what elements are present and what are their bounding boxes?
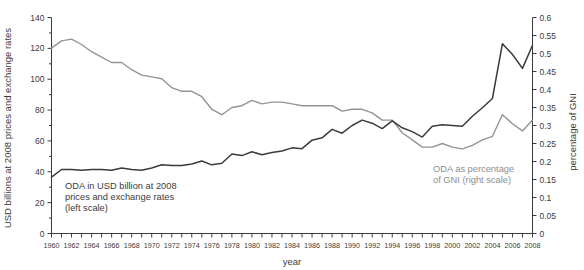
right-axis-ticks bbox=[533, 18, 537, 234]
tick-label: 1974 bbox=[184, 241, 200, 250]
tick-label: 1994 bbox=[384, 241, 400, 250]
y2-axis-title: percentage of GNI bbox=[567, 93, 578, 171]
tick-label: 0.3 bbox=[540, 121, 552, 131]
tick-label: 0.1 bbox=[540, 193, 552, 203]
tick-label: 0 bbox=[540, 229, 545, 239]
tick-label: 0.35 bbox=[540, 103, 557, 113]
tick-label: 1996 bbox=[404, 241, 420, 250]
chart-container: 020406080100120140 00.050.10.150.20.250.… bbox=[0, 0, 584, 270]
tick-label: 40 bbox=[35, 167, 45, 177]
tick-label: 2002 bbox=[464, 241, 480, 250]
tick-label: 1970 bbox=[144, 241, 160, 250]
x-axis-ticks bbox=[52, 234, 533, 238]
tick-label: 60 bbox=[35, 136, 45, 146]
tick-label: 1976 bbox=[204, 241, 220, 250]
tick-label: 1978 bbox=[224, 241, 240, 250]
x-axis-tick-labels: 1960196219641966196819701972197419761978… bbox=[44, 241, 541, 250]
annotation-left-line-1: ODA in USD billion at 2008 bbox=[65, 181, 177, 191]
tick-label: 1988 bbox=[324, 241, 340, 250]
tick-label: 1972 bbox=[164, 241, 180, 250]
annotation-right-line-2: of GNI (right scale) bbox=[433, 175, 511, 185]
chart-plot-svg: 020406080100120140 00.050.10.150.20.250.… bbox=[0, 0, 584, 270]
tick-label: 1984 bbox=[284, 241, 300, 250]
y-axis-title: USD billions at 2008 prices and exchange… bbox=[2, 28, 13, 228]
tick-label: 140 bbox=[30, 13, 44, 23]
tick-label: 120 bbox=[30, 43, 44, 53]
left-axis-ticks bbox=[48, 18, 52, 234]
tick-label: 80 bbox=[35, 105, 45, 115]
annotation-right-scale: ODA as percentage of GNI (right scale) bbox=[433, 164, 514, 185]
tick-label: 1962 bbox=[64, 241, 80, 250]
tick-label: 0.15 bbox=[540, 175, 557, 185]
tick-label: 1986 bbox=[304, 241, 320, 250]
tick-label: 20 bbox=[35, 198, 45, 208]
tick-label: 0.5 bbox=[540, 49, 552, 59]
right-axis-tick-labels: 00.050.10.150.20.250.30.350.40.450.50.55… bbox=[540, 13, 557, 239]
tick-label: 2000 bbox=[444, 241, 460, 250]
tick-label: 2006 bbox=[504, 241, 520, 250]
tick-label: 100 bbox=[30, 74, 44, 84]
tick-label: 0.55 bbox=[540, 31, 557, 41]
tick-label: 0.6 bbox=[540, 13, 552, 23]
tick-label: 0.4 bbox=[540, 85, 552, 95]
annotation-left-line-2: prices and exchange rates bbox=[65, 192, 174, 202]
tick-label: 0.2 bbox=[540, 157, 552, 167]
tick-label: 2004 bbox=[484, 241, 500, 250]
tick-label: 0 bbox=[40, 229, 45, 239]
left-axis-tick-labels: 020406080100120140 bbox=[30, 13, 44, 239]
x-axis-title: year bbox=[283, 256, 301, 267]
tick-label: 1980 bbox=[244, 241, 260, 250]
tick-label: 1968 bbox=[124, 241, 140, 250]
annotation-left-line-3: (left scale) bbox=[65, 203, 108, 213]
tick-label: 1990 bbox=[344, 241, 360, 250]
tick-label: 0.25 bbox=[540, 139, 557, 149]
tick-label: 1960 bbox=[44, 241, 60, 250]
tick-label: 1982 bbox=[264, 241, 280, 250]
series-line-oda-percentage-gni bbox=[52, 39, 533, 149]
tick-label: 0.05 bbox=[540, 211, 557, 221]
tick-label: 1964 bbox=[84, 241, 100, 250]
annotation-left-scale: ODA in USD billion at 2008 prices and ex… bbox=[65, 181, 177, 213]
tick-label: 2008 bbox=[525, 241, 541, 250]
tick-label: 1966 bbox=[104, 241, 120, 250]
annotation-right-line-1: ODA as percentage bbox=[433, 164, 514, 174]
tick-label: 0.45 bbox=[540, 67, 557, 77]
tick-label: 1992 bbox=[364, 241, 380, 250]
tick-label: 1998 bbox=[424, 241, 440, 250]
